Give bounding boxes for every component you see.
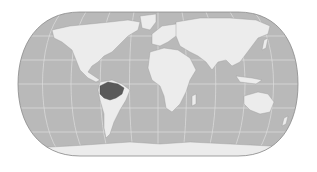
madagascar [192, 94, 196, 106]
antarctica [20, 142, 300, 172]
world-map [0, 0, 317, 172]
